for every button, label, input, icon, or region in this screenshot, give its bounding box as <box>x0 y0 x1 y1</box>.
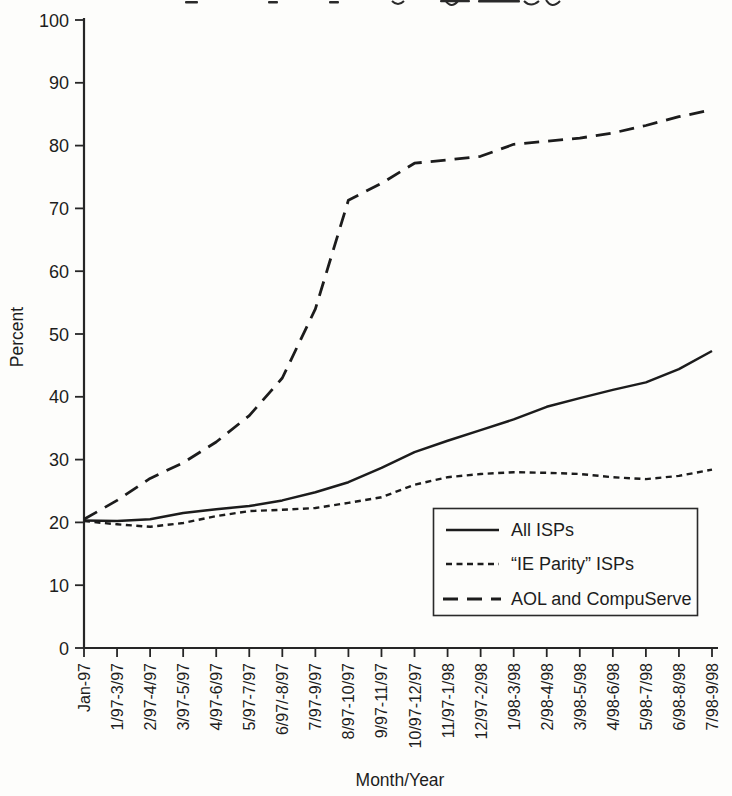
x-tick-label: 11/97-1/98 <box>440 663 457 738</box>
y-tick-label: 70 <box>49 199 69 219</box>
y-tick-label: 20 <box>49 513 69 533</box>
line-chart: 0102030405060708090100Jan-971/97-3/972/9… <box>0 0 732 796</box>
x-tick-label: 1/98-3/98 <box>506 663 523 731</box>
x-tick-label: 10/97-12/97 <box>407 663 424 749</box>
x-tick-label: 12/97-2/98 <box>473 663 490 740</box>
legend-label-ie-parity-isps: “IE Parity” ISPs <box>511 554 634 574</box>
x-tick-label: 3/98-5/98 <box>572 663 589 731</box>
y-tick-label: 60 <box>49 262 69 282</box>
y-tick-label: 50 <box>49 325 69 345</box>
x-tick-label: 9/97-11/97 <box>373 663 390 738</box>
x-tick-label: 7/97-9/97 <box>307 663 324 731</box>
legend-label-aol-compuserve: AOL and CompuServe <box>511 589 691 609</box>
legend-label-all-isps: All ISPs <box>511 520 574 540</box>
x-tick-label: 4/98-6/98 <box>605 663 622 731</box>
y-tick-label: 10 <box>49 576 69 596</box>
scanned-chart-page: 0102030405060708090100Jan-971/97-3/972/9… <box>0 0 732 796</box>
x-axis-title: Month/Year <box>356 770 445 790</box>
x-tick-label: 5/97-7/97 <box>241 663 258 731</box>
series-line-dashed-short <box>84 470 712 527</box>
x-tick-label: 7/98-9/98 <box>704 663 721 731</box>
y-tick-label: 90 <box>49 73 69 93</box>
x-tick-label: 3/97-5/97 <box>175 663 192 731</box>
y-axis-title: Percent <box>7 307 27 367</box>
x-tick-label: 4/97-6/97 <box>208 663 225 731</box>
y-tick-label: 30 <box>49 450 69 470</box>
y-tick-label: 0 <box>59 639 69 659</box>
chart-series <box>84 110 712 527</box>
x-tick-label: 8/97-10/97 <box>340 663 357 740</box>
y-tick-label: 40 <box>49 387 69 407</box>
legend: All ISPs “IE Parity” ISPs AOL and CompuS… <box>434 509 698 616</box>
y-tick-label: 80 <box>49 136 69 156</box>
x-tick-label: Jan-97 <box>76 663 93 712</box>
x-tick-label: 6/97/-8/97 <box>274 663 291 735</box>
series-line-solid <box>84 351 712 521</box>
chart-axes: 0102030405060708090100Jan-971/97-3/972/9… <box>39 11 721 749</box>
series-line-dashed-long <box>84 110 712 520</box>
x-tick-label: 6/98-8/98 <box>671 663 688 731</box>
x-tick-label: 2/97-4/97 <box>142 663 159 731</box>
cropped-title-fragments <box>185 0 560 5</box>
x-tick-label: 5/98-7/98 <box>638 663 655 731</box>
x-tick-label: 1/97-3/97 <box>109 663 126 731</box>
y-tick-label: 100 <box>39 11 69 31</box>
x-tick-label: 2/98-4/98 <box>539 663 556 731</box>
